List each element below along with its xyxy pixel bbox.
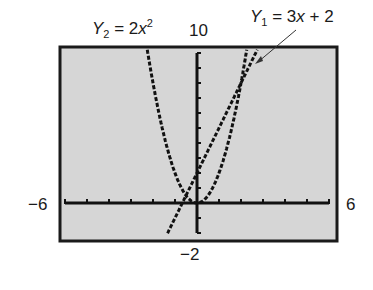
y2-equation-label: Y2 = 2x2 <box>92 18 153 40</box>
xmax-label: 6 <box>346 196 355 213</box>
xmin-label: −6 <box>28 196 47 213</box>
ymax-label: 10 <box>189 22 208 39</box>
ymin-label: −2 <box>180 246 199 263</box>
y1-equation-label: Y1 = 3x + 2 <box>250 8 334 28</box>
